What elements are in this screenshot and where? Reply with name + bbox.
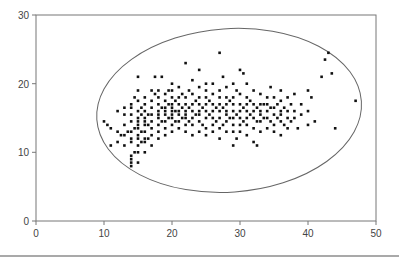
data-point [310,96,313,99]
x-axis: 0 10 20 30 40 50 [33,221,382,239]
data-point [283,106,286,109]
data-point [157,96,160,99]
data-point [171,110,174,113]
data-point [239,93,242,96]
data-point [252,103,255,106]
data-point [116,130,119,133]
data-point [137,100,140,103]
data-point [130,130,133,133]
y-tick-0: 0 [23,216,36,227]
data-point [222,106,225,109]
data-point [280,120,283,123]
data-point [137,117,140,120]
data-point [123,134,126,137]
data-point [232,144,235,147]
data-point [198,103,201,106]
data-point [235,137,238,140]
data-point [137,134,140,137]
data-point [144,110,147,113]
data-point [297,127,300,130]
data-point [331,72,334,75]
data-point [137,76,140,79]
data-point [218,117,221,120]
data-point [225,103,228,106]
data-point [269,120,272,123]
x-tick-40: 40 [302,221,314,239]
data-point [205,110,208,113]
data-point [273,96,276,99]
data-point [239,130,242,133]
data-point [144,124,147,127]
data-point [130,113,133,116]
data-point [110,127,113,130]
data-point [150,113,153,116]
data-point [178,86,181,89]
data-point [167,89,170,92]
data-point [249,113,252,116]
data-point [130,161,133,164]
data-point [191,93,194,96]
x-tick-50: 50 [370,221,382,239]
data-point [144,130,147,133]
data-point [171,113,174,116]
data-point [307,110,310,113]
data-point [167,117,170,120]
y-tick-label: 0 [23,216,29,227]
data-point [259,93,262,96]
data-point [205,96,208,99]
data-point [120,134,123,137]
data-point [198,110,201,113]
data-point [246,134,249,137]
data-point [327,52,330,55]
data-point [140,113,143,116]
data-point [266,117,269,120]
data-point [212,124,215,127]
data-point [218,52,221,55]
data-point [286,127,289,130]
x-tick-label: 30 [234,228,246,239]
data-point [225,113,228,116]
data-point [198,69,201,72]
data-point [144,96,147,99]
data-point [212,103,215,106]
data-point [290,103,293,106]
data-point [178,103,181,106]
data-point [144,151,147,154]
data-point [273,124,276,127]
data-point [286,110,289,113]
data-point [286,117,289,120]
data-point [137,151,140,154]
data-point [103,120,106,123]
y-tick-10: 10 [18,147,36,158]
data-point [150,134,153,137]
data-point [232,82,235,85]
data-point [266,103,269,106]
data-point [178,110,181,113]
data-point [198,130,201,133]
data-point [218,137,221,140]
data-point [225,96,228,99]
x-tick-label: 40 [302,228,314,239]
data-point [232,110,235,113]
x-tick-label: 20 [166,228,178,239]
data-point [259,103,262,106]
data-point [191,124,194,127]
data-point [205,117,208,120]
data-point [174,100,177,103]
data-point [157,124,160,127]
data-point [218,103,221,106]
data-point [195,100,198,103]
data-point [171,82,174,85]
data-point [201,106,204,109]
data-point [314,120,317,123]
data-point [273,113,276,116]
data-point [293,117,296,120]
data-point [259,110,262,113]
data-point [106,124,109,127]
data-point [259,120,262,123]
data-point [324,58,327,61]
data-point [290,120,293,123]
data-point [164,93,167,96]
data-point [249,100,252,103]
data-point [273,106,276,109]
